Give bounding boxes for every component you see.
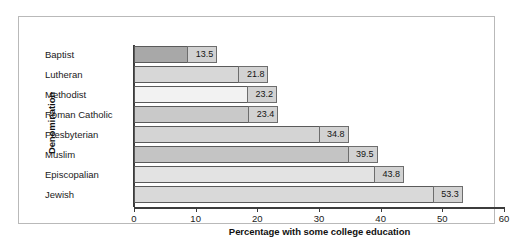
bar-row: 13.5 xyxy=(134,46,504,63)
category-label: Lutheran xyxy=(45,69,131,81)
bar xyxy=(134,126,349,143)
x-tick-label: 30 xyxy=(307,213,331,224)
bar-row: 53.3 xyxy=(134,186,504,203)
category-label: Methodist xyxy=(45,89,131,101)
bar-row: 23.4 xyxy=(134,106,504,123)
bar xyxy=(134,186,463,203)
bar-row: 34.8 xyxy=(134,126,504,143)
bar-value-label: 53.3 xyxy=(433,186,463,203)
bar xyxy=(134,146,378,163)
x-axis-title: Percentage with some college education xyxy=(134,226,505,237)
x-tick-label: 0 xyxy=(122,213,146,224)
x-tick-label: 60 xyxy=(492,213,513,224)
x-tick-label: 50 xyxy=(430,213,454,224)
x-tick-mark xyxy=(319,207,320,212)
bar-row: 23.2 xyxy=(134,86,504,103)
bar-value-label: 21.8 xyxy=(238,66,268,83)
x-tick-mark xyxy=(257,207,258,212)
bar-row: 43.8 xyxy=(134,166,504,183)
chart-frame: Denomination BaptistLutheranMethodistRom… xyxy=(18,16,495,224)
y-axis-category-labels: BaptistLutheranMethodistRoman CatholicPr… xyxy=(61,46,131,206)
y-axis-title: Denomination xyxy=(45,63,58,183)
category-label: Episcopalian xyxy=(45,169,131,181)
bar-value-label: 13.5 xyxy=(187,46,217,63)
bar-row: 21.8 xyxy=(134,66,504,83)
x-tick-mark xyxy=(134,207,135,212)
category-label: Muslim xyxy=(45,149,131,161)
x-tick-label: 10 xyxy=(184,213,208,224)
bar-value-label: 23.4 xyxy=(248,106,278,123)
category-label: Jewish xyxy=(45,189,131,201)
x-tick-mark xyxy=(196,207,197,212)
category-label: Roman Catholic xyxy=(45,109,131,121)
plot-area: 13.521.823.223.434.839.543.853.3 xyxy=(134,46,504,206)
category-label: Presbyterian xyxy=(45,129,131,141)
bar-value-label: 23.2 xyxy=(247,86,277,103)
bar-value-label: 34.8 xyxy=(319,126,349,143)
bar-value-label: 43.8 xyxy=(374,166,404,183)
x-tick-mark xyxy=(442,207,443,212)
bar-row: 39.5 xyxy=(134,146,504,163)
bar-value-label: 39.5 xyxy=(348,146,378,163)
x-tick-label: 20 xyxy=(245,213,269,224)
x-tick-mark xyxy=(381,207,382,212)
x-tick-label: 40 xyxy=(369,213,393,224)
x-tick-mark xyxy=(504,207,505,212)
category-label: Baptist xyxy=(45,49,131,61)
bar xyxy=(134,166,404,183)
